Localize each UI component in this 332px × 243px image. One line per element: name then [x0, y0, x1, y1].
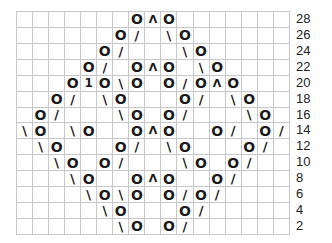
row-label: 24 [296, 43, 310, 59]
yarn-over-icon: O [259, 108, 271, 122]
chart-cell [33, 60, 49, 76]
chart-cell: O [129, 171, 145, 187]
chart-cell: O [210, 123, 226, 139]
yarn-over-icon: O [35, 124, 47, 138]
chart-cell [65, 219, 81, 235]
ssk-icon: \ [70, 124, 75, 137]
chart-cell: O [210, 171, 226, 187]
row-label: 6 [296, 186, 310, 202]
chart-cell: \ [113, 108, 129, 124]
chart-cell [194, 12, 210, 28]
chart-cell [33, 203, 49, 219]
chart-cell [49, 187, 65, 203]
chart-cell [274, 108, 290, 124]
yarn-over-icon: O [163, 124, 175, 138]
ssk-icon: \ [54, 156, 59, 169]
chart-cell: \ [113, 76, 129, 92]
chart-cell: \ [17, 123, 33, 139]
chart-cell: 1 [81, 76, 97, 92]
chart-cell: / [194, 203, 210, 219]
chart-cell [145, 108, 161, 124]
chart-cell [274, 44, 290, 60]
yarn-over-icon: O [99, 188, 111, 202]
chart-cell: O [33, 123, 49, 139]
chart-cell [258, 219, 274, 235]
chart-cell: O [177, 92, 193, 108]
chart-cell: / [258, 139, 274, 155]
yarn-over-icon: O [131, 219, 143, 233]
chart-cell: O [161, 171, 177, 187]
double-decrease-icon: Λ [213, 78, 222, 89]
yarn-over-icon: O [83, 60, 95, 74]
chart-cell: O [177, 203, 193, 219]
chart-cell [258, 76, 274, 92]
chart-cell: O [81, 123, 97, 139]
chart-cell: O [194, 155, 210, 171]
k2tog-icon: / [183, 188, 188, 201]
chart-cell [210, 28, 226, 44]
chart-cell [258, 187, 274, 203]
chart-cell: \ [65, 123, 81, 139]
chart-cell [81, 44, 97, 60]
chart-cell: O [177, 28, 193, 44]
chart-cell [210, 12, 226, 28]
chart-cell: O [113, 139, 129, 155]
chart-cell: O [194, 76, 210, 92]
chart-cell: O [194, 187, 210, 203]
yarn-over-icon: O [259, 124, 271, 138]
chart-cell: O [226, 76, 242, 92]
chart-cell: Λ [145, 171, 161, 187]
chart-cell: / [226, 171, 242, 187]
chart-cell [210, 155, 226, 171]
chart-cell: O [242, 92, 258, 108]
chart-cell: / [242, 155, 258, 171]
double-decrease-icon: Λ [149, 125, 158, 136]
chart-cell [242, 60, 258, 76]
chart-cell [258, 60, 274, 76]
chart-cell [161, 155, 177, 171]
yarn-over-icon: O [131, 108, 143, 122]
chart-cell: / [177, 108, 193, 124]
chart-cell: O [129, 187, 145, 203]
chart-cell [17, 60, 33, 76]
chart-cell [145, 187, 161, 203]
ssk-icon: \ [22, 124, 27, 137]
chart-cell: O [161, 76, 177, 92]
chart-cell [65, 60, 81, 76]
chart-cell [226, 187, 242, 203]
chart-cell: O [161, 12, 177, 28]
chart-cell [258, 203, 274, 219]
chart-cell [113, 123, 129, 139]
chart-cell [81, 92, 97, 108]
yarn-over-icon: O [51, 92, 63, 106]
chart-cell [161, 203, 177, 219]
chart-cell [49, 123, 65, 139]
yarn-over-icon: O [67, 156, 79, 170]
yarn-over-icon: O [195, 76, 207, 90]
chart-cell [33, 187, 49, 203]
yarn-over-icon: O [67, 76, 79, 90]
row-label: 22 [296, 59, 310, 75]
k2tog-icon: / [231, 124, 236, 137]
chart-cell: \ [161, 28, 177, 44]
chart-cell: \ [177, 155, 193, 171]
chart-cell [33, 12, 49, 28]
chart-cell [49, 203, 65, 219]
chart-cell [65, 187, 81, 203]
chart-cell [258, 92, 274, 108]
chart-cell [97, 139, 113, 155]
chart-cell: / [97, 60, 113, 76]
chart-cell: / [65, 92, 81, 108]
chart-cell: / [177, 219, 193, 235]
k2tog-icon: / [215, 188, 220, 201]
k2tog-icon: / [199, 204, 204, 217]
chart-cell: O [161, 187, 177, 203]
row-label: 14 [296, 122, 310, 138]
chart-cell: O [81, 171, 97, 187]
chart-cell: \ [242, 108, 258, 124]
chart-cell: O [161, 108, 177, 124]
row-label: 4 [296, 202, 310, 218]
chart-cell [242, 187, 258, 203]
chart-cell: / [129, 28, 145, 44]
chart-cell [177, 60, 193, 76]
